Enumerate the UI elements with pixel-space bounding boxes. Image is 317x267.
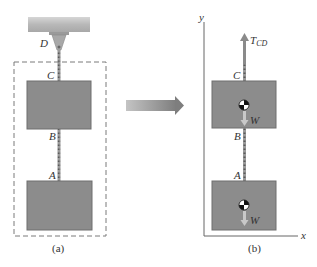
point-label-b-b: B [234, 130, 241, 142]
upper-block [27, 81, 91, 129]
tension-label: TCD [250, 34, 267, 48]
caption-b: (b) [248, 242, 261, 255]
transition-arrow [126, 96, 184, 115]
lower-block [27, 181, 92, 230]
center-of-mass-icon-lower [239, 200, 249, 210]
center-of-mass-icon [239, 100, 249, 110]
point-label-a: A [48, 169, 56, 181]
free-body-diagram: D C B A (a) y x TCD C [0, 0, 317, 267]
chain-ab [58, 129, 61, 181]
caption-a: (a) [52, 242, 65, 255]
weight-label-upper: W [250, 114, 260, 126]
axis-label-x: x [300, 229, 306, 241]
weight-label-lower: W [250, 214, 260, 226]
chain-cd [58, 50, 61, 81]
point-label-b: B [49, 130, 56, 142]
panel-b: y x TCD C W B A [198, 11, 306, 255]
point-label-a-b: A [233, 169, 241, 181]
chain-c-top [243, 64, 246, 81]
support-bracket [49, 32, 69, 50]
panel-a: D C B A (a) [14, 17, 106, 255]
support-label-d: D [39, 37, 48, 49]
ceiling [28, 17, 90, 32]
axis-label-y: y [198, 11, 204, 23]
tension-arrow [240, 33, 249, 65]
point-label-c: C [47, 69, 55, 81]
point-label-c-b: C [233, 69, 241, 81]
chain-ab-b [243, 128, 246, 181]
